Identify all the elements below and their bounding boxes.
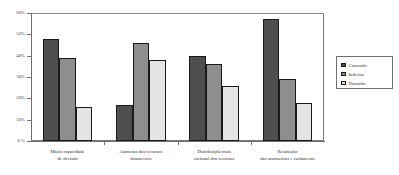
legend-swatch-icon [341, 72, 346, 77]
category-label: Resoluçãodas assimetrias e isolamento [237, 149, 337, 162]
bar [76, 107, 93, 141]
y-axis-tick [27, 141, 32, 142]
y-axis-tick-label-wrap: 60% [0, 10, 25, 16]
y-axis-tick-label: 10% [16, 117, 25, 122]
y-axis-tick-label: 20% [16, 95, 25, 100]
y-axis-tick-label-wrap: 30% [0, 74, 25, 80]
legend-item-label: Discordo [349, 81, 366, 86]
legend-swatch-icon [341, 63, 346, 68]
bar [149, 60, 166, 141]
legend-item[interactable]: Indeciso [341, 70, 364, 78]
bar [43, 39, 60, 141]
x-axis-tick [178, 141, 179, 145]
y-axis-tick-label: 60% [16, 10, 25, 15]
x-axis-tick [104, 141, 105, 145]
y-axis-tick-label: 50% [16, 31, 25, 36]
bars-layer [31, 13, 324, 141]
legend: ConcordoIndecisoDiscordo [336, 56, 393, 89]
legend-item[interactable]: Concordo [341, 61, 367, 69]
bar [133, 43, 150, 141]
bar [189, 56, 206, 141]
legend-item-label: Indeciso [349, 72, 365, 77]
bar [263, 19, 280, 141]
bar [116, 105, 133, 141]
category-label-line: das assimetrias e isolamento [237, 156, 337, 163]
legend-item[interactable]: Discordo [341, 79, 365, 87]
y-axis-tick-label: 40% [16, 53, 25, 58]
y-axis-tick-label-wrap: 0 % [0, 138, 25, 144]
bar [59, 58, 76, 141]
y-axis-tick-label-wrap: 20% [0, 95, 25, 101]
bar [296, 103, 313, 141]
y-axis-tick-label-wrap: 40% [0, 53, 25, 59]
x-axis-tick [251, 141, 252, 145]
legend-swatch-icon [341, 81, 346, 86]
bar-chart: 0 %10%20%30%40%50%60% Maior capacidadede… [0, 0, 399, 175]
y-axis-tick-label-wrap: 50% [0, 31, 25, 37]
y-axis-tick-label: 30% [16, 74, 25, 79]
bar [206, 64, 223, 141]
legend-item-label: Concordo [349, 63, 367, 68]
bar [222, 86, 239, 141]
y-axis-tick-label: 0 % [17, 138, 25, 143]
y-axis-tick-label-wrap: 10% [0, 117, 25, 123]
category-label-line: Resolução [237, 149, 337, 156]
bar [279, 79, 296, 141]
